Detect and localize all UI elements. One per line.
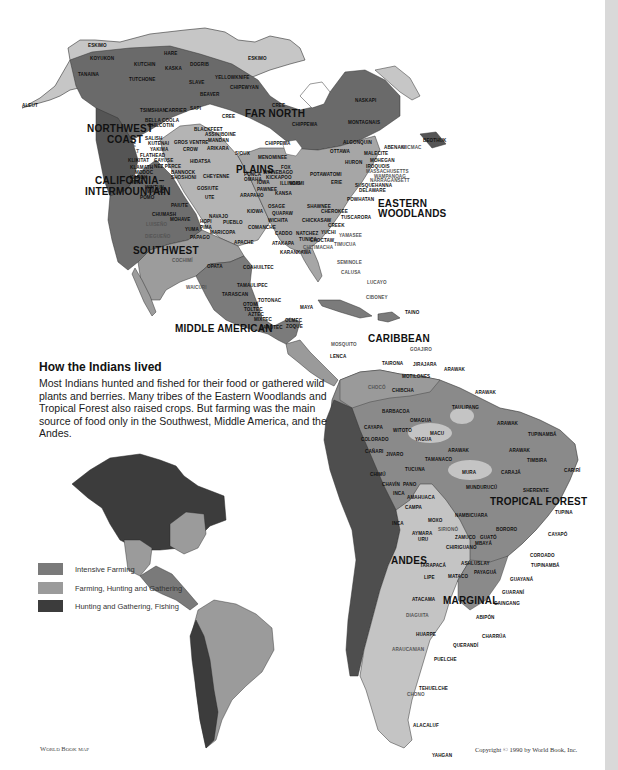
tribe-label: HUARPE	[416, 632, 436, 637]
tribe-label: CAYAPÓ	[548, 532, 567, 537]
tribe-label: QUILEUTE	[112, 143, 136, 148]
tribe-label: HARE	[164, 51, 177, 56]
tribe-label: CHIPPEWA	[265, 141, 290, 146]
tribe-label: TAULIPANG	[452, 405, 479, 410]
tribe-label: ARAWAK	[444, 367, 465, 372]
tribe-label: PUELCHE	[434, 657, 457, 662]
tribe-label: PANO	[403, 482, 416, 487]
tribe-label: DIAGUITA	[406, 613, 429, 618]
tribe-label: KOYUKON	[90, 56, 114, 61]
tribe-label: OLMEC	[285, 318, 302, 323]
region-eastern-2: WOODLANDS	[378, 208, 446, 219]
tribe-label: MOHEGAN	[370, 158, 395, 163]
tribe-label: LUISEÑO	[146, 222, 167, 227]
legend-item-farming-hunting: Farming, Hunting and Gathering	[38, 582, 182, 594]
cuba	[318, 300, 372, 318]
tribe-label: ARAUCANIAN	[392, 647, 424, 652]
tribe-label: QUINAULT	[115, 149, 139, 154]
map-credit: World Book map	[40, 745, 89, 752]
tribe-label: SLAVE	[189, 80, 204, 85]
legend-swatch	[38, 600, 63, 612]
tribe-label: CAINGANG	[494, 601, 520, 606]
tribe-label: YAHGAN	[432, 753, 452, 758]
tribe-label: CARIRÍ	[564, 468, 580, 473]
tribe-label: MONTAGNAIS	[348, 120, 380, 125]
tribe-label: TIMUCUA	[334, 242, 356, 247]
tribe-label: CAMPA	[405, 505, 422, 510]
tribe-label: PAPAGO	[190, 235, 210, 240]
region-southwest: SOUTHWEST	[133, 245, 199, 256]
tribe-label: WITOTO	[393, 428, 412, 433]
tribe-label: CARAJÁ	[501, 470, 521, 475]
tribe-label: CARRIER	[165, 108, 187, 113]
tribe-label: ALGONQUIN	[343, 140, 372, 145]
tribe-label: CREE	[222, 114, 235, 119]
tribe-label: ERIE	[331, 180, 342, 185]
tribe-label: ARAWAK	[475, 390, 496, 395]
tribe-label: CHONO	[407, 692, 425, 697]
region-marginal: MARGINAL	[443, 595, 498, 606]
tribe-label: MALECITE	[364, 151, 388, 156]
hispaniola	[378, 312, 400, 322]
tribe-label: MIXTEC	[254, 317, 272, 322]
tribe-label: NAMBICUARA	[455, 513, 488, 518]
tribe-label: CALUSA	[341, 270, 361, 275]
tribe-label: YUCHI	[321, 230, 336, 235]
tribe-label: TARAPACÁ	[420, 563, 446, 568]
tribe-label: WASHO	[147, 189, 165, 194]
tribe-label: POWHATAN	[347, 197, 374, 202]
tribe-label: ARAWAK	[497, 421, 518, 426]
tribe-label: CHICKASAW	[302, 218, 331, 223]
tribe-label: ASHLUSLAY	[461, 561, 490, 566]
tribe-label: CHEROKEE	[321, 209, 348, 214]
tribe-label: TUPINAMBÁ	[531, 563, 559, 568]
tribe-label: KARANKAWA	[280, 250, 311, 255]
tribe-label: BEOTHUK	[423, 138, 446, 143]
tribe-label: CROW	[183, 147, 198, 152]
tribe-label: YAMASEE	[339, 233, 362, 238]
tribe-label: MOHAVE	[170, 217, 190, 222]
tribe-label: BEAVER	[200, 92, 219, 97]
tribe-label: OMAGUA	[410, 418, 432, 423]
tribe-label: ZAMUCO	[455, 535, 476, 540]
tribe-label: MIAMI	[290, 181, 304, 186]
tribe-label: TAINO	[405, 310, 419, 315]
tribe-label: YAKIMA	[150, 147, 168, 152]
tribe-label: CHIPEWYAN	[230, 85, 259, 90]
tribe-label: CHAVÍN	[382, 482, 400, 487]
legend-label: Intensive Farming	[75, 565, 135, 574]
region-caribbean: CARIBBEAN	[368, 333, 430, 344]
tribe-label: KIOWA	[247, 209, 263, 214]
tribe-label: TAIRONA	[382, 361, 403, 366]
tribe-label: MBAYÁ	[475, 541, 492, 546]
tribe-label: SIOUX	[235, 151, 250, 156]
tribe-label: MARICOPA	[210, 230, 235, 235]
tribe-label: JIRAJARA	[413, 362, 437, 367]
tribe-label: KLIKITAT	[128, 158, 149, 163]
tribe-label: MOSQUITO	[331, 342, 357, 347]
tribe-label: TARASCAN	[222, 292, 248, 297]
tribe-label: GUARANÍ	[502, 590, 524, 595]
tribe-label: UTE	[205, 195, 215, 200]
tribe-label: POMO	[140, 195, 154, 200]
tribe-label: TUSCARORA	[341, 215, 371, 220]
tribe-label: COAHUILTEC	[243, 265, 274, 270]
tribe-label: MOXO	[428, 518, 442, 523]
tribe-label: URU	[418, 537, 428, 542]
tribe-label: LUCAYO	[367, 280, 387, 285]
tribe-label: GUAYANÁ	[510, 577, 533, 582]
tribe-label: CAYAPA	[364, 425, 383, 430]
tribe-label: TUCUNA	[405, 467, 425, 472]
tribe-label: ZAPOTEC	[260, 325, 283, 330]
legend-swatch	[38, 563, 63, 575]
tribe-label: TANAINA	[78, 72, 99, 77]
tribe-label: MICMAC	[402, 145, 421, 150]
tribe-label: COROADO	[530, 553, 555, 558]
tribe-label: TIMBIRA	[527, 458, 547, 463]
tribe-label: ALEUT	[22, 103, 38, 108]
tribe-label: TUPINAMBÁ	[528, 432, 556, 437]
legend-label: Farming, Hunting and Gathering	[75, 584, 182, 593]
tribe-label: GUATÓ	[480, 535, 497, 540]
tribe-label: TUPINA	[555, 510, 573, 515]
legend-label: Hunting and Gathering, Fishing	[75, 602, 179, 611]
